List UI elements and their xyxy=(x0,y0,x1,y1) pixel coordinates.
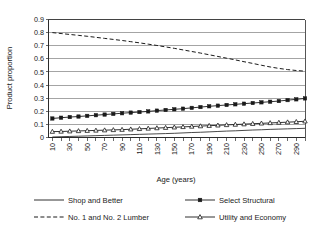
y-tick-label: 0.6 xyxy=(34,54,44,63)
y-axis-title: Product proportion xyxy=(5,47,14,109)
data-point-marker xyxy=(155,109,158,112)
y-tick-label: 0.2 xyxy=(34,107,44,116)
x-tick-label: 10 xyxy=(48,143,57,151)
data-point-marker xyxy=(59,116,62,119)
chart-figure: 00.10.20.30.40.50.60.70.80.9 10305070901… xyxy=(0,0,327,238)
x-axis-title: Age (years) xyxy=(156,175,196,184)
data-point-marker xyxy=(129,111,132,114)
y-tick-label: 0.1 xyxy=(34,120,44,129)
x-tick-label: 210 xyxy=(222,143,231,155)
data-point-marker xyxy=(146,110,149,113)
data-point-marker xyxy=(286,98,289,101)
x-tick-label: 150 xyxy=(170,143,179,155)
data-point-marker xyxy=(277,99,280,102)
data-point-marker xyxy=(86,114,89,117)
y-tick-label: 0.3 xyxy=(34,94,44,103)
y-tick-label: 0.9 xyxy=(34,15,44,24)
data-point-marker xyxy=(164,108,167,111)
x-tick-label: 30 xyxy=(65,143,74,151)
data-point-marker xyxy=(225,103,228,106)
data-point-marker xyxy=(103,113,106,116)
y-tick-label: 0.7 xyxy=(34,41,44,50)
x-tick-label: 90 xyxy=(118,143,127,151)
data-point-marker xyxy=(251,101,254,104)
y-tick-label: 0.4 xyxy=(34,81,44,90)
y-tick-label: 0.8 xyxy=(34,28,44,37)
y-tick-label: 0 xyxy=(40,133,44,142)
x-tick-label: 130 xyxy=(153,143,162,155)
data-point-marker xyxy=(181,107,184,110)
legend-label: Utility and Economy xyxy=(219,213,286,222)
data-point-marker xyxy=(242,102,245,105)
data-point-marker xyxy=(112,112,115,115)
x-tick-label: 70 xyxy=(100,143,109,151)
data-point-marker xyxy=(260,101,263,104)
data-point-marker xyxy=(234,103,237,106)
x-tick-label: 230 xyxy=(240,143,249,155)
x-tick-label: 110 xyxy=(135,143,144,154)
data-point-marker xyxy=(51,117,54,120)
data-point-marker xyxy=(207,105,210,108)
x-tick-label: 170 xyxy=(187,143,196,155)
x-tick-label: 290 xyxy=(292,143,301,155)
line-chart: 00.10.20.30.40.50.60.70.80.9 10305070901… xyxy=(0,0,327,238)
data-point-marker xyxy=(77,115,80,118)
legend-label: Shop and Better xyxy=(68,196,123,205)
data-point-marker xyxy=(199,105,202,108)
data-point-marker xyxy=(68,115,71,118)
x-tick-label: 270 xyxy=(274,143,283,155)
data-point-marker xyxy=(303,97,306,100)
x-tick-label: 250 xyxy=(257,143,266,155)
x-tick-label: 50 xyxy=(83,143,92,151)
data-point-marker xyxy=(216,104,219,107)
data-point-marker xyxy=(190,106,193,109)
data-point-marker xyxy=(173,108,176,111)
chart-background xyxy=(0,0,327,238)
x-tick-label: 190 xyxy=(205,143,214,155)
y-tick-label: 0.5 xyxy=(34,68,44,77)
legend-marker-square xyxy=(198,198,202,202)
data-point-marker xyxy=(94,114,97,117)
data-point-marker xyxy=(138,110,141,113)
data-point-marker xyxy=(268,100,271,103)
legend-label: Select Structural xyxy=(219,196,275,205)
legend-label: No. 1 and No. 2 Lumber xyxy=(68,213,150,222)
data-point-marker xyxy=(295,98,298,101)
data-point-marker xyxy=(120,112,123,115)
